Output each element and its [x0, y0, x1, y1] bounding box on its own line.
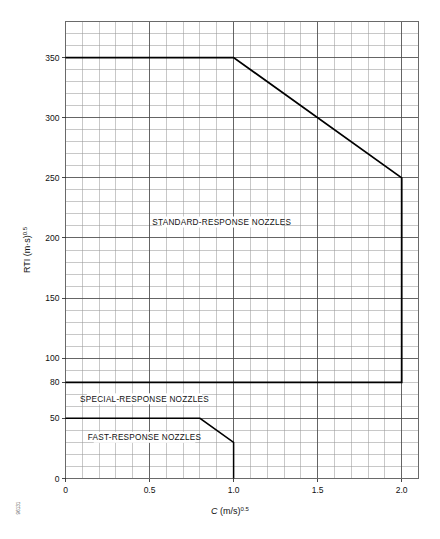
y-tick-label: 50: [50, 413, 60, 423]
y-tick-label: 150: [45, 293, 59, 303]
rti-response-chart: 00.51.01.52.0 05080100150200250300350 ST…: [0, 0, 440, 539]
y-tick-label: 300: [45, 113, 59, 123]
y-tick-label: 80: [50, 377, 60, 387]
zone-annotation: SPECIAL-RESPONSE NOZZLES: [80, 395, 209, 404]
figure-reference-number: 96131: [16, 501, 21, 514]
x-axis-title: C (m/s)0.5: [211, 506, 250, 516]
y-tick-label: 200: [45, 233, 59, 243]
x-tick-label: 1.5: [312, 485, 324, 495]
x-tick-label: 0: [63, 485, 68, 495]
y-tick-label: 100: [45, 353, 59, 363]
y-tick-labels: 05080100150200250300350: [45, 53, 59, 484]
x-axis-title-text: C (m/s)0.5: [211, 506, 250, 516]
y-axis-title: RTI (m·s)0.5: [22, 226, 32, 273]
x-tick-label: 1.0: [228, 485, 240, 495]
x-tick-labels: 00.51.01.52.0: [63, 485, 408, 495]
y-tick-label: 250: [45, 173, 59, 183]
chart-canvas: 00.51.01.52.0 05080100150200250300350 ST…: [0, 0, 440, 539]
x-tick-label: 2.0: [396, 485, 408, 495]
annotation-layer: STANDARD-RESPONSE NOZZLESSPECIAL-RESPONS…: [80, 217, 292, 443]
minor-gridlines: [66, 22, 419, 479]
y-axis-title-text: RTI (m·s)0.5: [22, 226, 32, 273]
zone-annotation: STANDARD-RESPONSE NOZZLES: [152, 218, 291, 227]
x-tick-label: 0.5: [144, 485, 156, 495]
chart-svg: 00.51.01.52.0 05080100150200250300350 ST…: [0, 0, 440, 539]
zone-annotation: FAST-RESPONSE NOZZLES: [88, 433, 202, 442]
y-tick-label: 350: [45, 53, 59, 63]
figure-reference-number-text: 96131: [16, 501, 21, 514]
y-tick-label: 0: [55, 474, 60, 484]
